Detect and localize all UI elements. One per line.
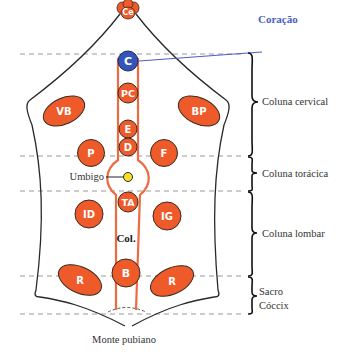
node-f: F [151, 140, 178, 167]
node-p: P [78, 140, 105, 167]
spine-label: Col. [116, 232, 136, 244]
node-c-heart: C [118, 51, 138, 71]
umbilicus-dot [124, 173, 133, 182]
svg-text:E: E [125, 124, 132, 135]
brace-cervical [248, 53, 258, 156]
svg-text:BP: BP [192, 106, 207, 117]
node-id: ID [75, 200, 103, 228]
svg-text:F: F [161, 148, 168, 159]
brace-thoracic [248, 157, 257, 191]
heart-label: Coração [258, 13, 298, 25]
svg-text:PC: PC [121, 88, 135, 99]
node-d: D [119, 138, 137, 156]
svg-text:P: P [87, 148, 94, 159]
node-b: B [112, 259, 140, 287]
region-label-lumbar: Coluna lombar [262, 228, 325, 239]
svg-text:TA: TA [121, 197, 135, 208]
svg-text:R: R [76, 275, 84, 286]
region-label-thoracic: Coluna torácica [262, 168, 329, 179]
svg-text:VB: VB [56, 106, 71, 117]
node-pc: PC [118, 83, 138, 103]
node-bp: BP [174, 90, 225, 132]
svg-text:IG: IG [161, 211, 173, 222]
brace-sacrum [248, 277, 257, 314]
node-r-right: R [146, 259, 199, 302]
node-ce: Ce [117, 0, 139, 19]
svg-text:B: B [122, 267, 130, 280]
brace-lumbar [248, 192, 257, 276]
region-label-cervical: Coluna cervical [262, 96, 328, 107]
svg-text:C: C [124, 55, 132, 68]
svg-text:D: D [124, 142, 132, 153]
node-ta: TA [118, 192, 138, 212]
region-label-sacrum: Sacro [259, 286, 283, 297]
region-label-coccyx: Cóccix [259, 300, 289, 311]
pubic-mound-arc [108, 308, 146, 313]
svg-text:Ce: Ce [122, 8, 134, 17]
node-ig: IG [153, 202, 181, 230]
node-vb: VB [39, 90, 90, 132]
node-e: E [119, 120, 137, 138]
node-r-left: R [54, 258, 107, 301]
pubic-mound-label: Monte pubiano [92, 334, 156, 345]
svg-text:ID: ID [83, 209, 95, 220]
umbilicus-label: Umbigo [70, 171, 104, 182]
svg-text:R: R [168, 276, 176, 287]
region-braces [248, 53, 258, 314]
hand-reflex-diagram: Coração Ce C PC E D Umbigo TA Col. B [0, 0, 353, 364]
